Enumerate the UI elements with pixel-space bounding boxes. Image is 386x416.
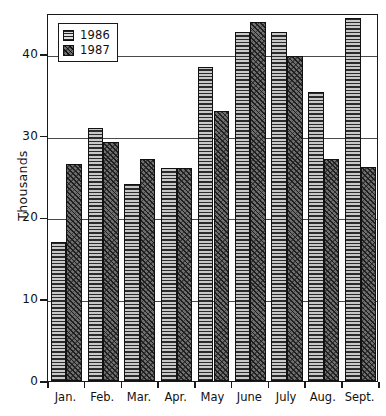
bar-1986-June: [235, 32, 251, 381]
bar-1986-Feb: [88, 128, 104, 381]
bar-1987-Jan: [66, 164, 82, 382]
bar-1987-Aug: [324, 159, 340, 381]
x-tick-mark-Sept: [341, 382, 343, 388]
x-tick-mark-Apr: [157, 382, 159, 388]
x-tick-label-May: May: [194, 390, 231, 404]
y-tick-mark-40: [40, 54, 47, 56]
x-tick-label-Jan: Jan.: [47, 390, 84, 404]
legend-swatch-1987-icon: [63, 45, 74, 56]
bar-1987-Sept: [361, 167, 377, 381]
bar-1987-July: [287, 56, 303, 381]
y-tick-label-40: 40: [8, 47, 38, 61]
y-tick-mark-0: [40, 381, 47, 383]
x-tick-mark-July: [268, 382, 270, 388]
x-tick-label-Aug: Aug.: [304, 390, 341, 404]
x-tick-mark-Feb: [84, 382, 86, 388]
y-tick-mark-20: [40, 218, 47, 220]
legend-item-1986: 1986: [63, 28, 110, 42]
y-tick-label-30: 30: [8, 129, 38, 143]
x-tick-mark-Jan: [47, 382, 49, 388]
legend-swatch-1986-icon: [63, 30, 74, 41]
x-tick-mark-Aug: [304, 382, 306, 388]
y-tick-label-0: 0: [8, 374, 38, 388]
x-tick-mark-Mar: [121, 382, 123, 388]
bar-1987-Apr: [177, 168, 193, 381]
plot-area: 1986 1987: [47, 14, 378, 382]
bar-1986-Jan: [51, 242, 67, 381]
x-tick-label-Mar: Mar.: [121, 390, 158, 404]
x-tick-mark-June: [231, 382, 233, 388]
x-tick-label-Feb: Feb.: [84, 390, 121, 404]
bar-1986-Apr: [161, 168, 177, 381]
bar-1987-Feb: [103, 142, 119, 381]
chart-legend: 1986 1987: [58, 23, 118, 62]
y-tick-mark-30: [40, 136, 47, 138]
x-tick-label-July: July: [268, 390, 305, 404]
bar-1987-Mar: [140, 159, 156, 381]
legend-label-1986: 1986: [80, 28, 110, 42]
bar-1987-May: [214, 111, 230, 381]
bar-1986-Aug: [308, 92, 324, 382]
bar-1986-July: [271, 32, 287, 381]
x-tick-mark-end: [378, 382, 380, 388]
bars-layer: [48, 15, 377, 381]
bar-1987-June: [250, 22, 266, 381]
x-tick-mark-May: [194, 382, 196, 388]
x-tick-label-Apr: Apr.: [157, 390, 194, 404]
x-tick-label-June: June: [231, 390, 268, 404]
y-tick-label-10: 10: [8, 292, 38, 306]
legend-label-1987: 1987: [80, 43, 110, 57]
bar-1986-May: [198, 67, 214, 381]
bar-chart: Thousands 010203040 1986 1987 Jan.Feb.Ma…: [0, 0, 386, 416]
bar-1986-Mar: [124, 184, 140, 381]
bar-1986-Sept: [345, 18, 361, 381]
y-tick-label-20: 20: [8, 210, 38, 224]
y-tick-mark-10: [40, 299, 47, 301]
x-tick-label-Sept: Sept.: [341, 390, 378, 404]
legend-item-1987: 1987: [63, 43, 110, 57]
